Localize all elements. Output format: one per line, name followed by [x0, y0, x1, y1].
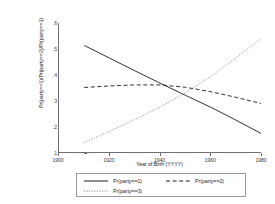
legend-label-party2: Pr(party==2)	[195, 178, 224, 184]
legend-label-party1: Pr(party==1)	[113, 178, 142, 184]
legend-row-2: Pr(party==3)	[77, 186, 245, 196]
legend-item-party2[interactable]: Pr(party==2)	[165, 176, 224, 186]
legend-key-solid-icon	[83, 177, 109, 185]
x-tick-mark	[109, 153, 110, 156]
legend-item-party3[interactable]: Pr(party==3)	[83, 186, 142, 196]
plot-area	[58, 23, 261, 153]
legend-key-dashed-icon	[165, 177, 191, 185]
x-tick-mark	[58, 153, 59, 156]
y-tick-label: .3	[43, 98, 57, 104]
chart-screenshot: Pr(party==1)/Pr(party==2)/Pr(party==3) .…	[0, 0, 275, 204]
y-tick-label: .5	[43, 46, 57, 52]
y-tick-label: .6	[43, 20, 57, 26]
legend-row-1: Pr(party==1) Pr(party==2)	[77, 176, 245, 186]
legend-item-party1[interactable]: Pr(party==1)	[83, 176, 142, 186]
x-tick-mark	[261, 153, 262, 156]
y-tick-label: .2	[43, 124, 57, 130]
chart-legend: Pr(party==1) Pr(party==2)	[76, 173, 246, 197]
series-line-dashed	[84, 85, 261, 104]
legend-label-party3: Pr(party==3)	[113, 188, 142, 194]
series-line-solid	[84, 45, 261, 133]
graph-region: Pr(party==1)/Pr(party==2)/Pr(party==3) .…	[14, 6, 262, 198]
y-axis-tick-labels: .1.2.3.4.5.6	[40, 23, 57, 153]
y-tick-label: .1	[43, 150, 57, 156]
y-tick-label: .4	[43, 72, 57, 78]
x-tick-mark	[160, 153, 161, 156]
x-tick-mark	[210, 153, 211, 156]
plot-lines	[59, 23, 261, 152]
legend-key-dotted-icon	[83, 187, 109, 195]
series-line-dotted	[84, 38, 261, 142]
x-axis-title: Year of Birth (YYYY)	[58, 161, 261, 167]
